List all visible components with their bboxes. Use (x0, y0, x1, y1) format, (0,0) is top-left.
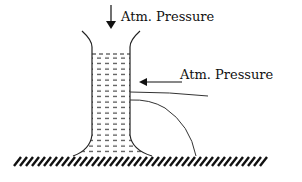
right-wall (130, 31, 152, 156)
liquid-column (70, 54, 160, 156)
liquid-jet (130, 92, 208, 156)
side-pressure-arrow (139, 78, 182, 86)
top-pressure-label: Atm. Pressure (120, 9, 215, 24)
side-pressure-label: Atm. Pressure (179, 67, 274, 82)
jet-curve (130, 100, 196, 156)
ground-hatching (14, 157, 267, 166)
diagram-canvas: Atm. Pressure Atm. Pressure (0, 0, 302, 182)
left-wall (73, 31, 92, 156)
jet-upper-line (130, 92, 208, 96)
top-pressure-arrow (106, 5, 116, 29)
